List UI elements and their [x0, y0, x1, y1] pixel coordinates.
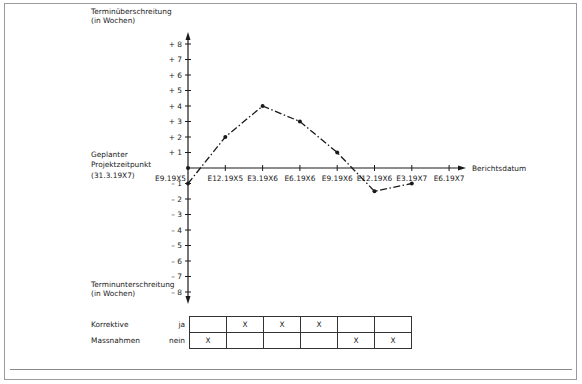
- table-cell: [301, 333, 338, 349]
- data-point: [186, 182, 190, 186]
- row-label-korrektive: Korrektive: [91, 317, 159, 333]
- origin-label-2: Projektzeitpunkt: [91, 160, 151, 169]
- table-cell: X: [301, 317, 338, 333]
- table-cell: [227, 333, 264, 349]
- y-tick-label: – 4: [171, 226, 182, 235]
- y-bottom-label-2: (in Wochen): [91, 289, 135, 298]
- option-ja: ja: [159, 317, 190, 333]
- y-axis-arrow-down-icon: [186, 296, 191, 304]
- table-row-nein: Massnahmen nein X X X: [91, 333, 412, 349]
- y-tick-label: + 4: [169, 102, 183, 111]
- origin-label-3: (31.3.19X7): [91, 171, 135, 180]
- corrective-measures-table: Korrektive ja X X X Massnahmen nein X X …: [91, 316, 412, 349]
- table-cell: X: [190, 333, 227, 349]
- table-cell: [375, 317, 412, 333]
- table-cell: X: [264, 317, 301, 333]
- table-cell: [338, 317, 375, 333]
- y-tick-label: + 7: [169, 55, 183, 64]
- data-point: [335, 151, 339, 155]
- origin-point: [186, 166, 190, 170]
- y-axis-arrow-up-icon: [186, 32, 191, 40]
- y-tick-label: – 5: [171, 241, 182, 250]
- x-tick-label: E12.19X5: [208, 174, 244, 183]
- y-bottom-label-1: Terminunterschreitung: [90, 280, 175, 289]
- y-tick-label: + 6: [169, 71, 183, 80]
- option-nein: nein: [159, 333, 190, 349]
- y-tick-label: + 2: [169, 133, 182, 142]
- y-tick-label: – 3: [171, 210, 182, 219]
- y-tick-label: + 1: [169, 148, 183, 157]
- table-cell: [190, 317, 227, 333]
- y-tick-label: + 3: [169, 117, 183, 126]
- origin-label-1: Geplanter: [91, 150, 129, 159]
- data-point: [373, 189, 377, 193]
- x-axis-label: Berichtsdatum: [472, 164, 526, 173]
- y-top-label-1: Terminüberschreitung: [90, 7, 172, 16]
- x-axis-arrow-icon: [458, 166, 466, 171]
- x-tick-label: E3.19X6: [247, 174, 278, 183]
- table-cell: [264, 333, 301, 349]
- y-top-label-2: (in Wochen): [91, 16, 135, 25]
- row-label-massnahmen: Massnahmen: [91, 333, 159, 349]
- x-tick-label: E9.19X5: [155, 174, 186, 183]
- y-tick-label: + 5: [169, 86, 183, 95]
- x-tick-label: E6.19X6: [284, 174, 315, 183]
- table-cell: X: [227, 317, 264, 333]
- table-cell: X: [338, 333, 375, 349]
- table-cell: X: [375, 333, 412, 349]
- data-point: [223, 135, 227, 139]
- data-point: [261, 104, 265, 108]
- x-tick-label: E6.19X7: [434, 174, 465, 183]
- data-point: [410, 182, 414, 186]
- y-tick-label: + 8: [169, 40, 183, 49]
- y-tick-label: – 2: [171, 195, 182, 204]
- x-tick-label: E9.19X6: [322, 174, 353, 183]
- table-row-ja: Korrektive ja X X X: [91, 317, 412, 333]
- data-point: [298, 120, 302, 124]
- y-tick-label: – 6: [171, 257, 182, 266]
